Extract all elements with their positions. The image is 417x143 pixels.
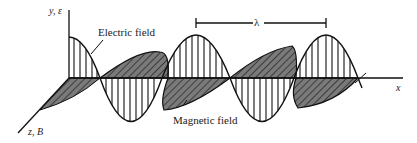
- z-axis-label: z, B: [28, 126, 43, 137]
- magnetic-field-label: Magnetic field: [173, 114, 237, 126]
- wavelength-marker: [196, 18, 326, 28]
- wavelength-label: λ: [254, 16, 259, 28]
- x-axis-label: x: [396, 82, 400, 93]
- y-axis-label: y, ε: [49, 5, 62, 16]
- electric-field-leader: [91, 40, 103, 54]
- z-axis: [18, 78, 69, 133]
- electric-field-label: Electric field: [98, 26, 155, 38]
- em-wave-diagram: y, ε Electric field λ x Magnetic field z…: [0, 0, 417, 143]
